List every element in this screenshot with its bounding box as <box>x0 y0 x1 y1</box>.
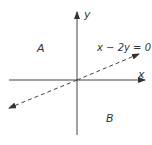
region-a-label: A <box>36 42 45 55</box>
x-axis-label: x <box>137 68 145 81</box>
region-b-label: B <box>106 112 114 125</box>
line-x-minus-2y-equals-0-lower <box>9 80 77 108</box>
line-equation-label: x − 2y = 0 <box>96 42 151 53</box>
y-axis-label: y <box>83 8 91 21</box>
coordinate-diagram: y x x − 2y = 0 A B <box>0 0 152 145</box>
line-x-minus-2y-equals-0-upper <box>77 54 139 80</box>
